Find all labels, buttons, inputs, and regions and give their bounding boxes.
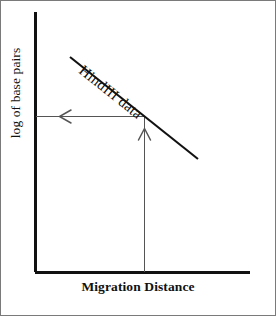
axis-lines [35, 12, 250, 273]
interpolation-guides [36, 110, 151, 272]
figure-root: HindIII data Migration Distance log of b… [0, 0, 276, 316]
x-axis-title: Migration Distance [0, 279, 276, 295]
y-axis-title: log of base pairs [8, 0, 26, 213]
plot-canvas [0, 0, 276, 316]
